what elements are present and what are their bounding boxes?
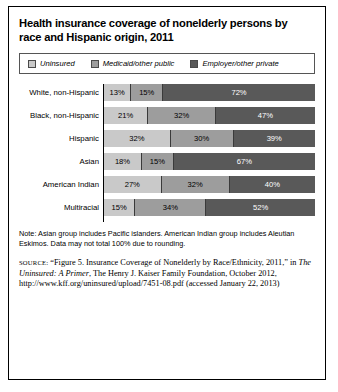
bar-row: 15%34%52% [104,199,315,216]
bar-value-label: 72% [231,88,246,97]
bar-value-label: 27% [125,180,140,189]
bar-value-label: 52% [253,203,268,212]
page-title: Health insurance coverage of nonelderly … [19,17,311,44]
legend-swatch-icon [91,60,99,68]
legend-item-label: Uninsured [40,59,75,68]
bar-value-label: 47% [258,111,273,120]
bar-value-label: 18% [115,157,130,166]
category-axis: White, non-Hispanic Black, non-Hispanic … [19,84,103,222]
bar-segment: 39% [234,130,315,147]
bar-segment: 15% [142,153,174,170]
axis-tick-label: Hispanic [19,130,103,147]
chart-note: Note: Asian group includes Pacific islan… [19,229,315,249]
bar-row: 27%32%40% [104,176,315,193]
bar-row: 32%30%39% [104,130,315,147]
bar-row: 18%15%67% [104,153,315,170]
bar-segment: 32% [162,176,230,193]
legend-item-label: Employer/other private [202,59,278,68]
bar-value-label: 15% [139,88,154,97]
source-text-before: “Figure 5. Insurance Coverage of Nonelde… [48,258,298,267]
bar-segment: 21% [104,107,148,124]
bar-value-label: 15% [150,157,165,166]
bar-segment: 15% [104,199,135,216]
bar-value-label: 34% [163,203,178,212]
bars-container: 13%15%72%21%32%47%32%30%39%18%15%67%27%3… [103,84,315,222]
bar-segment: 72% [163,84,315,101]
bar-segment: 67% [174,153,315,170]
bar-value-label: 67% [237,157,252,166]
bar-segment: 40% [230,176,315,193]
axis-tick-label: Multiracial [19,199,103,216]
legend-item-label: Medicaid/other public [103,59,175,68]
legend-swatch-icon [28,60,36,68]
bar-segment: 15% [131,84,163,101]
bar-value-label: 32% [174,111,189,120]
bar-segment: 30% [171,130,234,147]
chart-source: SOURCE: “Figure 5. Insurance Coverage of… [19,258,315,290]
axis-tick-label: American Indian [19,176,103,193]
legend-item-uninsured: Uninsured [28,59,75,68]
bar-segment: 47% [216,107,315,124]
figure-frame: Health insurance coverage of nonelderly … [8,6,326,380]
bar-segment: 32% [148,107,216,124]
axis-tick-label: Black, non-Hispanic [19,107,103,124]
bar-segment: 34% [135,199,206,216]
bar-value-label: 15% [112,203,127,212]
bar-row: 21%32%47% [104,107,315,124]
bar-value-label: 39% [267,134,282,143]
bar-segment: 27% [104,176,162,193]
bar-segment: 18% [104,153,142,170]
bar-segment: 52% [206,199,315,216]
bar-value-label: 40% [265,180,280,189]
bar-value-label: 30% [194,134,209,143]
bar-row: 13%15%72% [104,84,315,101]
legend-item-medicaid: Medicaid/other public [91,59,175,68]
bar-value-label: 32% [129,134,144,143]
bar-value-label: 21% [118,111,133,120]
bar-segment: 13% [104,84,131,101]
source-kicker: SOURCE: [19,259,48,266]
chart-legend: Uninsured Medicaid/other public Employer… [19,53,315,74]
bar-value-label: 13% [110,88,125,97]
axis-tick-label: White, non-Hispanic [19,84,103,101]
axis-tick-label: Asian [19,153,103,170]
bar-segment: 32% [104,130,171,147]
chart-plot-area: White, non-Hispanic Black, non-Hispanic … [19,84,315,222]
figure-inner: Health insurance coverage of nonelderly … [19,15,315,373]
legend-swatch-icon [190,60,198,68]
legend-item-employer: Employer/other private [190,59,278,68]
bar-value-label: 32% [188,180,203,189]
